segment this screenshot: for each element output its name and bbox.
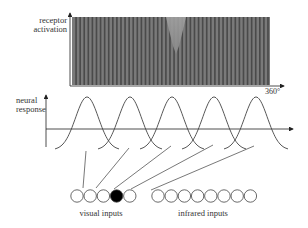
receptor-stripe [247,17,249,85]
receptor-stripe [145,17,147,85]
receptor-stripe [104,17,106,85]
receptor-ylabel-line2: activation [33,25,67,34]
receptor-stripe [243,17,245,85]
receptor-stripe [116,17,118,85]
receptor-stripe [226,17,228,85]
connection-line [83,151,86,188]
tuning-curve [55,97,119,149]
receptor-stripe [210,17,212,85]
receptor-stripe [124,17,126,85]
visual-input-node [97,190,109,202]
receptor-stripe [153,17,155,85]
infrared-input-node [205,190,217,202]
receptor-activation-panel [70,13,284,86]
receptor-stripe [198,17,200,85]
tuning-curve [98,97,162,149]
receptor-stripe [194,17,196,85]
receptor-stripe [206,17,208,85]
diagram-canvas [0,0,308,228]
receptor-stripe [186,17,188,85]
input-nodes [71,190,257,202]
tuning-curves [55,97,288,149]
receptor-stripe [259,17,261,85]
receptor-stripe [141,17,143,85]
visual-input-node-active [110,190,122,202]
receptor-stripe [92,17,94,85]
receptor-stripe [79,17,81,85]
receptor-stripe [96,17,98,85]
receptor-stripe [128,17,130,85]
receptor-stripe [112,17,114,85]
infrared-input-node [165,190,177,202]
infrared-input-node [152,190,164,202]
receptor-stripe [157,17,159,85]
receptor-stripe [165,17,167,85]
receptor-stripe [161,17,163,85]
neural-response-panel [46,95,293,149]
receptor-stripe [190,17,192,85]
infrared-input-node [218,190,230,202]
infrared-input-node [231,190,243,202]
tuning-curve [140,97,204,149]
tuning-curve [182,97,246,149]
receptor-stripe [83,17,85,85]
receptor-stripe [88,17,90,85]
infrared-input-node [178,190,190,202]
visual-input-node [124,190,136,202]
visual-input-node [71,190,83,202]
infrared-input-node [191,190,203,202]
receptor-stripe [100,17,102,85]
x-axis-end-label: 360° [265,87,280,96]
receptor-stripe [235,17,237,85]
receptor-stripe [132,17,134,85]
visual-input-node [84,190,96,202]
receptor-stripe [149,17,151,85]
visual-inputs-label: visual inputs [79,209,122,218]
receptor-stripe [137,17,139,85]
receptor-stripe [239,17,241,85]
infrared-input-node [244,190,256,202]
receptor-stripe [75,17,77,85]
receptor-stripe [202,17,204,85]
receptor-stripe [267,17,269,85]
response-ylabel-line2: response [16,105,46,114]
receptor-stripe [120,17,122,85]
tuning-curve [224,97,288,149]
receptor-stripe [255,17,257,85]
connection-line [96,148,129,188]
receptor-stripe [230,17,232,85]
connection-line [151,146,254,190]
receptor-stripe [218,17,220,85]
receptor-stripe [263,17,265,85]
infrared-inputs-label: infrared inputs [178,209,228,218]
connection-lines [83,145,254,190]
receptor-stripe [251,17,253,85]
receptor-stripe [214,17,216,85]
receptor-stripe [222,17,224,85]
receptor-stripe [108,17,110,85]
